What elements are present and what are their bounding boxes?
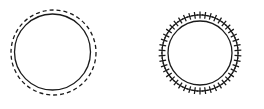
plus-marker bbox=[180, 83, 189, 92]
plus-marker bbox=[191, 12, 199, 20]
plus-marker bbox=[162, 31, 171, 40]
plus-marker bbox=[186, 85, 194, 93]
plus-marker bbox=[229, 31, 238, 40]
plus-marker bbox=[162, 66, 171, 75]
plus-marker bbox=[186, 12, 194, 20]
plus-marker bbox=[211, 83, 220, 92]
figure-panel bbox=[0, 0, 264, 109]
plus-marker bbox=[206, 12, 214, 20]
plus-marker bbox=[231, 61, 240, 70]
circle-figures-canvas bbox=[0, 0, 264, 109]
cross-ring-figure bbox=[158, 12, 241, 95]
plus-marker-ring bbox=[158, 12, 241, 95]
dashed-ring-figure bbox=[11, 10, 96, 95]
plus-marker bbox=[231, 36, 240, 45]
plus-marker bbox=[206, 85, 214, 93]
plus-marker bbox=[180, 14, 189, 23]
plus-marker bbox=[229, 66, 238, 75]
plus-marker bbox=[160, 36, 169, 45]
plus-marker bbox=[211, 14, 220, 23]
plus-marker bbox=[160, 61, 169, 70]
solid-circle bbox=[168, 21, 232, 85]
solid-inner-circle bbox=[15, 14, 91, 90]
dashed-outer-circle bbox=[11, 10, 96, 95]
